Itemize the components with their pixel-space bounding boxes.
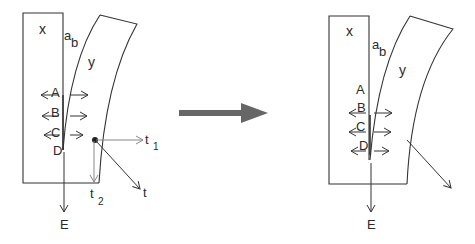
left-label-D: D: [53, 143, 62, 158]
right-label-B: B: [357, 100, 366, 115]
right-curved-shape-y: [370, 16, 453, 184]
right-label-D: D: [359, 138, 368, 153]
left-label-y: y: [88, 54, 95, 70]
diagram-canvas: x a b y A B C D E t 1 t 2 t: [0, 0, 475, 244]
left-label-C: C: [51, 125, 60, 140]
right-label-x: x: [346, 23, 353, 39]
transition-arrow: [179, 103, 268, 123]
left-label-E: E: [60, 217, 69, 232]
vector-t-arrow: [96, 141, 140, 189]
left-panel: x a b y A B C D E t 1 t 2 t: [23, 13, 159, 232]
right-block-x: [329, 16, 407, 184]
label-t2-sub: 2: [98, 196, 104, 207]
right-vector-t-arrow: [407, 140, 451, 188]
right-panel: x a b y A B C D E: [329, 16, 453, 232]
label-t1-sub: 1: [153, 141, 159, 152]
left-label-A: A: [51, 85, 60, 100]
label-t2: t: [90, 186, 94, 201]
label-t1: t: [145, 132, 149, 147]
right-label-y: y: [399, 62, 406, 78]
label-t: t: [143, 185, 147, 200]
right-label-b: b: [379, 44, 386, 59]
right-label-A: A: [356, 82, 365, 97]
left-label-x: x: [39, 21, 46, 37]
right-label-C: C: [356, 119, 365, 134]
left-label-b: b: [71, 35, 78, 50]
right-label-E: E: [367, 217, 376, 232]
left-label-B: B: [51, 105, 60, 120]
